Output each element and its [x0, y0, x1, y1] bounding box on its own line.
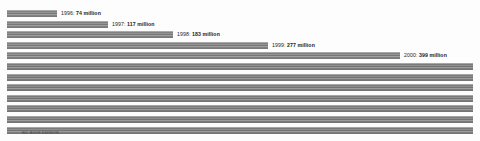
bar-label-value: 399 million — [419, 52, 447, 58]
bar-unlabeled — [7, 84, 473, 91]
bar-unlabeled — [7, 116, 473, 123]
bar-unlabeled — [7, 63, 473, 70]
bar-row — [0, 103, 480, 114]
bar-label-year: 1999: — [272, 42, 285, 48]
bar-row: 1996:74 million — [0, 8, 480, 19]
bar-row — [0, 114, 480, 125]
bar-row — [0, 72, 480, 83]
bar-label-value: 74 million — [76, 10, 101, 16]
bar-row — [0, 125, 480, 136]
bar-chart: 1996:74 million1997:117 million1998:183 … — [0, 0, 480, 141]
bar-unlabeled — [7, 105, 473, 112]
chart-footnote: NO. BOOK DIVISION — [22, 131, 59, 136]
bar-label-value: 277 million — [287, 42, 315, 48]
bar-row — [0, 61, 480, 72]
bar-label-1997: 1997:117 million — [112, 20, 155, 28]
bar-unlabeled — [7, 95, 473, 102]
bar-label-year: 2000: — [404, 52, 417, 58]
bar-label-1998: 1998:183 million — [177, 30, 220, 38]
bar-label-year: 1998: — [177, 31, 190, 37]
bar-label-1999: 1999:277 million — [272, 41, 315, 49]
bar-row — [0, 82, 480, 93]
bar-1997 — [7, 21, 108, 28]
bar-label-year: 1997: — [112, 21, 125, 27]
bar-row: 1997:117 million — [0, 19, 480, 30]
bar-1999 — [7, 42, 268, 49]
bar-row: 2000:399 million — [0, 50, 480, 61]
bar-unlabeled — [7, 74, 473, 81]
bar-unlabeled — [7, 127, 473, 134]
bar-1996 — [7, 10, 57, 17]
bar-label-year: 1996: — [61, 10, 74, 16]
bar-label-value: 183 million — [192, 31, 220, 37]
bar-row: 1998:183 million — [0, 29, 480, 40]
bar-1998 — [7, 31, 173, 38]
bar-2000 — [7, 52, 400, 59]
bar-label-value: 117 million — [127, 21, 155, 27]
bar-row — [0, 93, 480, 104]
bar-row: 1999:277 million — [0, 40, 480, 51]
plot-area: 1996:74 million1997:117 million1998:183 … — [0, 0, 480, 141]
bar-label-2000: 2000:399 million — [404, 51, 447, 59]
bar-label-1996: 1996:74 million — [61, 9, 101, 17]
